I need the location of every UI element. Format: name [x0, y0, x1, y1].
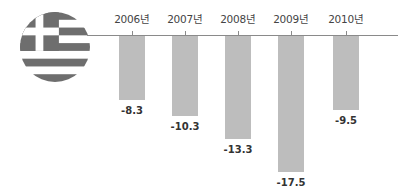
- value-label: -8.3: [107, 105, 157, 116]
- axis-tick: [185, 31, 186, 35]
- greece-flag-icon: [20, 12, 90, 82]
- bar: [278, 36, 304, 172]
- year-label: 2010년: [316, 11, 376, 26]
- axis-tick: [346, 31, 347, 35]
- bar: [333, 36, 359, 110]
- axis-tick: [132, 31, 133, 35]
- value-label: -13.3: [213, 144, 263, 155]
- year-label: 2008년: [208, 11, 268, 26]
- value-label: -10.3: [160, 121, 210, 132]
- axis-tick: [291, 31, 292, 35]
- value-label: -17.5: [266, 177, 316, 188]
- year-label: 2009년: [261, 11, 321, 26]
- axis-tick: [238, 31, 239, 35]
- bar: [119, 36, 145, 100]
- bar: [225, 36, 251, 139]
- year-label: 2006년: [102, 11, 162, 26]
- value-label: -9.5: [321, 115, 371, 126]
- bar: [172, 36, 198, 116]
- year-label: 2007년: [155, 11, 215, 26]
